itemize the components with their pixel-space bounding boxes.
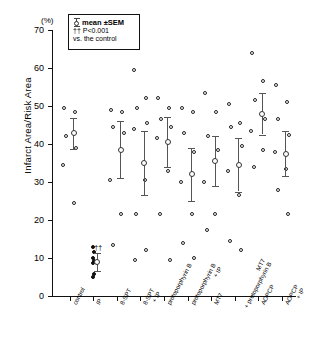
data-point — [61, 163, 65, 167]
error-bar-cap — [164, 167, 171, 168]
data-point — [135, 106, 139, 110]
significance-marker: †† — [94, 244, 102, 251]
data-point — [214, 110, 218, 114]
mean-marker — [236, 162, 242, 168]
data-point — [263, 117, 267, 121]
y-tick-label: 60 — [24, 63, 44, 73]
data-point — [252, 165, 256, 169]
y-tick-label: 0 — [24, 291, 44, 301]
data-point — [111, 125, 115, 129]
error-bar-cap — [188, 148, 195, 149]
data-point — [62, 106, 66, 110]
data-point — [133, 258, 137, 262]
error-bar-cap — [117, 121, 124, 122]
error-bar-cap — [70, 118, 77, 119]
data-point — [109, 108, 113, 112]
error-bar-cap — [259, 93, 266, 94]
data-point — [274, 83, 278, 87]
data-point — [261, 79, 265, 83]
y-tick-label: 50 — [24, 101, 44, 111]
data-point — [181, 241, 185, 245]
mean-marker — [189, 171, 195, 177]
y-tick — [48, 68, 52, 69]
mean-marker — [94, 259, 100, 265]
data-point — [191, 110, 195, 114]
data-point — [206, 134, 210, 138]
data-point — [132, 127, 136, 131]
x-tick-label: MT7 — [213, 292, 225, 306]
data-point — [239, 248, 243, 252]
data-point — [240, 144, 244, 148]
data-point — [111, 243, 115, 247]
data-point — [182, 131, 186, 135]
data-point — [192, 256, 196, 260]
data-point — [249, 129, 253, 133]
data-point — [203, 91, 207, 95]
data-point — [286, 212, 290, 216]
error-bar-cap — [70, 149, 77, 150]
data-point — [132, 68, 136, 72]
error-bar-cap — [282, 131, 289, 132]
error-bar-cap — [188, 201, 195, 202]
data-point — [72, 201, 76, 205]
error-bar-cap — [212, 136, 219, 137]
y-tick — [48, 220, 52, 221]
data-point — [253, 98, 257, 102]
y-tick — [48, 106, 52, 107]
data-point — [205, 228, 209, 232]
error-bar-cap — [212, 186, 219, 187]
data-point — [180, 106, 184, 110]
y-tick — [48, 30, 52, 31]
x-tick-label: AOPCP — [260, 284, 276, 306]
error-bar-cap — [94, 253, 101, 254]
data-point — [169, 125, 173, 129]
error-bar-cap — [141, 195, 148, 196]
data-point — [202, 180, 206, 184]
data-point — [273, 150, 277, 154]
error-bar-cap — [164, 117, 171, 118]
data-point — [158, 212, 162, 216]
data-point — [120, 110, 124, 114]
data-point — [237, 193, 241, 197]
x-tick-label: IP — [95, 298, 104, 306]
data-point — [276, 188, 280, 192]
data-point — [213, 212, 217, 216]
data-point — [73, 110, 77, 114]
data-point — [167, 106, 171, 110]
y-axis-line — [52, 30, 53, 296]
data-point — [119, 212, 123, 216]
data-point — [155, 136, 159, 140]
mean-marker — [165, 139, 171, 145]
legend-mean-row: mean ±SEM — [73, 18, 135, 27]
mean-sem-marker-icon — [73, 18, 80, 27]
error-bar-cap — [117, 178, 124, 179]
error-bar-cap — [94, 271, 101, 272]
y-tick-label: 10 — [24, 253, 44, 263]
mean-marker — [118, 147, 124, 153]
legend-box: mean ±SEM †† P<0.001 vs. the control — [68, 14, 140, 50]
y-tick-label: 20 — [24, 215, 44, 225]
y-tick-label: 70 — [24, 25, 44, 35]
data-point — [276, 117, 280, 121]
data-point — [156, 96, 160, 100]
mean-marker — [71, 130, 77, 136]
data-point — [192, 150, 196, 154]
x-tick-label: AOPCP+ IP — [284, 284, 306, 309]
y-tick — [48, 296, 52, 297]
mean-marker — [259, 111, 265, 117]
legend-mean-label: mean ±SEM — [82, 19, 124, 27]
data-point — [166, 169, 170, 173]
data-point — [287, 133, 291, 137]
y-tick-label: 30 — [24, 177, 44, 187]
data-point — [250, 51, 254, 55]
error-bar-cap — [141, 131, 148, 132]
data-point — [261, 148, 265, 152]
data-point — [226, 169, 230, 173]
data-point — [91, 275, 95, 279]
mean-marker — [283, 151, 289, 157]
data-point — [227, 102, 231, 106]
data-point — [64, 134, 68, 138]
data-point — [228, 239, 232, 243]
data-point — [134, 212, 138, 216]
error-bar-cap — [259, 135, 266, 136]
